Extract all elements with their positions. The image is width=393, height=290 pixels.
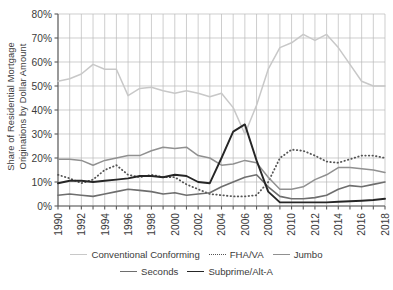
y-axis-tick-label: 10% xyxy=(32,177,52,188)
legend-item-fha-va[interactable]: FHA/VA xyxy=(209,249,264,260)
x-axis-tick-label: 2010 xyxy=(286,213,297,236)
legend-row: SecondsSubprime/Alt-A xyxy=(0,263,393,280)
chart-legend: Conventional ConformingFHA/VAJumboSecond… xyxy=(0,246,393,280)
line-chart-plot: 0%10%20%30%40%50%60%70%80%19901992199419… xyxy=(0,0,393,246)
y-axis-tick-label: 20% xyxy=(32,153,52,164)
legend-label: Subprime/Alt-A xyxy=(208,266,273,277)
x-axis-tick-label: 2002 xyxy=(193,213,204,236)
legend-swatch-icon xyxy=(187,271,204,272)
y-axis-tick-label: 0% xyxy=(37,201,52,212)
x-axis-tick-label: 2000 xyxy=(170,213,181,236)
legend-swatch-icon xyxy=(273,254,290,255)
x-axis-tick-label: 2004 xyxy=(216,213,227,236)
x-axis-tick-label: 2016 xyxy=(356,213,367,236)
x-axis-tick-label: 1990 xyxy=(53,213,64,236)
legend-item-jumbo[interactable]: Jumbo xyxy=(273,249,323,260)
y-axis-tick-label: 70% xyxy=(32,33,52,44)
x-axis-tick-label: 2014 xyxy=(333,213,344,236)
legend-label: FHA/VA xyxy=(230,249,264,260)
x-axis-tick-label: 1992 xyxy=(76,213,87,236)
x-axis-tick-label: 2008 xyxy=(263,213,274,236)
x-axis-tick-label: 2018 xyxy=(380,213,391,236)
x-axis-tick-label: 2012 xyxy=(310,213,321,236)
x-axis-tick-label: 1996 xyxy=(123,213,134,236)
legend-item-subprime-alt-a[interactable]: Subprime/Alt-A xyxy=(187,266,273,277)
legend-label: Seconds xyxy=(141,266,178,277)
y-axis-tick-label: 40% xyxy=(32,105,52,116)
y-axis-tick-label: 80% xyxy=(32,9,52,20)
legend-swatch-icon xyxy=(70,254,87,255)
legend-label: Conventional Conforming xyxy=(91,249,199,260)
y-axis-tick-label: 60% xyxy=(32,57,52,68)
legend-row: Conventional ConformingFHA/VAJumbo xyxy=(0,246,393,263)
y-axis-tick-label: 30% xyxy=(32,129,52,140)
legend-item-seconds[interactable]: Seconds xyxy=(120,266,178,277)
x-axis-tick-label: 2006 xyxy=(240,213,251,236)
legend-swatch-icon xyxy=(209,254,226,255)
legend-swatch-icon xyxy=(120,271,137,272)
legend-label: Jumbo xyxy=(294,249,323,260)
x-axis-tick-label: 1994 xyxy=(100,213,111,236)
legend-item-conventional-conforming[interactable]: Conventional Conforming xyxy=(70,249,199,260)
x-axis-tick-label: 1998 xyxy=(146,213,157,236)
chart-figure: Share of Residential MortgageOrigination… xyxy=(0,0,393,290)
y-axis-tick-label: 50% xyxy=(32,81,52,92)
